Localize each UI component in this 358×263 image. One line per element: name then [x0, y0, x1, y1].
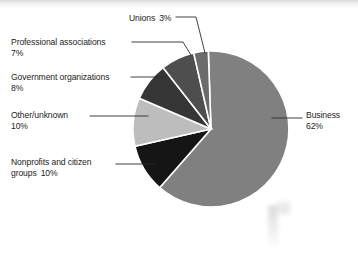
- callout-nonprofits-label-line2: groups: [11, 168, 37, 178]
- callout-government-organizations-label: Government organizations: [11, 72, 109, 82]
- callout-nonprofits-label: Nonprofits and citizen: [11, 157, 91, 167]
- callout-unions-percent: 3%: [159, 13, 171, 23]
- chart-plot-area: Unions3% Professional associations 7% Go…: [0, 0, 358, 263]
- callout-other-unknown-percent: 10%: [11, 121, 68, 132]
- callout-government-organizations: Government organizations 8%: [11, 72, 109, 94]
- callout-nonprofits-line2: groups10%: [11, 168, 91, 179]
- pie-chart-figure: Unions3% Professional associations 7% Go…: [0, 0, 358, 263]
- leader-line-unions: [176, 17, 205, 53]
- pie-slices: [133, 51, 289, 207]
- scan-watermark-artifact-blob: [276, 200, 292, 216]
- callout-business-percent: 62%: [306, 121, 340, 132]
- callout-unions: Unions3%: [129, 13, 171, 24]
- callout-professional-associations-percent: 7%: [11, 48, 105, 59]
- callout-business-label: Business: [306, 110, 340, 120]
- callout-government-organizations-percent: 8%: [11, 83, 109, 94]
- callout-business: Business 62%: [306, 110, 340, 132]
- callout-other-unknown: Other/unknown 10%: [11, 110, 68, 132]
- leader-line-professional-associations: [132, 42, 191, 55]
- callout-professional-associations: Professional associations 7%: [11, 37, 105, 59]
- callout-unions-label: Unions: [129, 13, 155, 23]
- callout-other-unknown-label: Other/unknown: [11, 110, 68, 120]
- callout-nonprofits: Nonprofits and citizen groups10%: [11, 157, 91, 179]
- callout-professional-associations-label: Professional associations: [11, 37, 105, 47]
- callout-nonprofits-percent: 10%: [41, 168, 58, 178]
